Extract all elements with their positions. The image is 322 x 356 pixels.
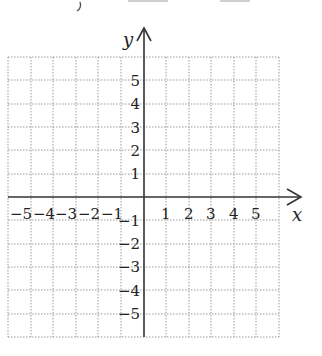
- y-tick-1: 1: [130, 165, 140, 183]
- x-tick-1: 1: [161, 205, 171, 223]
- x-tick-neg2: −2: [78, 205, 100, 223]
- y-tick-3: 3: [130, 119, 140, 137]
- y-tick-2: 2: [130, 142, 140, 160]
- x-axis-label: x: [292, 204, 302, 225]
- y-tick-neg5: −5: [118, 305, 140, 323]
- x-tick-5: 5: [251, 205, 261, 223]
- y-tick-neg2: −2: [118, 235, 140, 253]
- y-tick-5: 5: [130, 72, 140, 90]
- x-tick-4: 4: [229, 205, 239, 223]
- x-tick-3: 3: [206, 205, 216, 223]
- y-tick-neg1: −1: [118, 212, 140, 230]
- y-axis-label: y: [122, 29, 134, 50]
- x-tick-neg3: −3: [55, 205, 77, 223]
- x-tick-2: 2: [184, 205, 194, 223]
- y-tick-neg3: −3: [118, 258, 140, 276]
- y-tick-neg4: −4: [118, 282, 140, 300]
- coordinate-plane: x y −5 −4 −3 −2 −1 1 2 3 4 5 5 4 3 2 1 −…: [0, 0, 322, 356]
- x-axis: [8, 189, 301, 205]
- x-tick-neg4: −4: [33, 205, 55, 223]
- cropped-header-text: [77, 0, 250, 11]
- x-tick-neg5: −5: [10, 205, 32, 223]
- y-tick-4: 4: [130, 95, 140, 113]
